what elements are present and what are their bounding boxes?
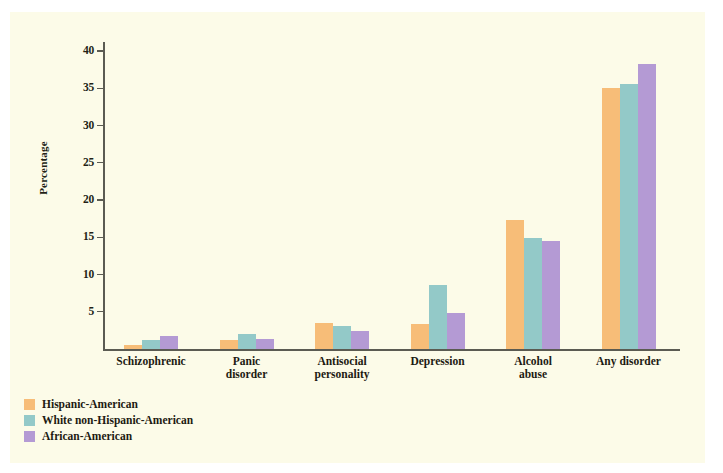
legend-label: Hispanic-American (42, 398, 138, 410)
y-tick-label-row: 40 (10, 44, 94, 58)
chart-figure: Percentage 510152025303540 Schizophrenic… (10, 12, 705, 463)
bar (351, 331, 369, 349)
bar-set (602, 49, 656, 349)
legend-label: African-American (42, 430, 132, 442)
y-tick-label-row: 35 (10, 81, 94, 95)
y-tick-label: 15 (60, 230, 94, 242)
bar (542, 241, 560, 349)
bar (429, 285, 447, 349)
bar (238, 334, 256, 349)
y-tick-mark (97, 237, 103, 238)
y-tick-mark (97, 125, 103, 126)
bar-set (124, 49, 178, 349)
bar (620, 84, 638, 349)
y-tick-label-row: 15 (10, 230, 94, 244)
y-tick-label: 40 (60, 44, 94, 56)
legend-swatch-icon (24, 415, 35, 426)
bar (256, 339, 274, 349)
x-axis-category-label-line: Any disorder (569, 355, 689, 368)
y-tick-label-row: 25 (10, 156, 94, 170)
plot-area: Percentage 510152025303540 Schizophrenic… (10, 12, 705, 463)
y-tick-label: 20 (60, 193, 94, 205)
y-tick-mark (97, 311, 103, 312)
bar-group: Panicdisorder (220, 49, 274, 349)
bar (506, 220, 524, 349)
y-tick-mark (97, 199, 103, 200)
x-axis-line (103, 349, 680, 351)
bar (142, 340, 160, 349)
y-tick-label-row: 30 (10, 119, 94, 133)
y-tick-label: 35 (60, 81, 94, 93)
legend-item: African-American (24, 429, 193, 443)
legend-swatch-icon (24, 431, 35, 442)
legend-swatch-icon (24, 399, 35, 410)
x-axis-category-label: Any disorder (569, 355, 689, 368)
bar (315, 323, 333, 349)
y-tick-mark (97, 50, 103, 51)
bar (220, 340, 238, 349)
y-tick-label-row: 5 (10, 305, 94, 319)
legend-item: Hispanic-American (24, 397, 193, 411)
bar (638, 64, 656, 349)
bar-group: Any disorder (602, 49, 656, 349)
bar-set (411, 49, 465, 349)
bar-set (506, 49, 560, 349)
bar-group: Alcoholabuse (506, 49, 560, 349)
bar (124, 345, 142, 349)
bar-set (220, 49, 274, 349)
y-tick-label-row: 20 (10, 193, 94, 207)
x-axis-category-label-line: personality (282, 368, 402, 381)
y-tick-label-row: 10 (10, 268, 94, 282)
y-tick-mark (97, 274, 103, 275)
y-tick-mark (97, 162, 103, 163)
bar (602, 88, 620, 349)
y-axis-line (103, 42, 105, 350)
y-tick-label: 30 (60, 119, 94, 131)
y-tick-label: 10 (60, 268, 94, 280)
bar (333, 326, 351, 349)
y-tick-mark (97, 88, 103, 89)
bar (411, 324, 429, 349)
legend-item: White non-Hispanic-American (24, 413, 193, 427)
bar-group: Antisocialpersonality (315, 49, 369, 349)
y-tick-label: 5 (60, 305, 94, 317)
chart-legend: Hispanic-AmericanWhite non-Hispanic-Amer… (24, 397, 193, 445)
bar-group: Depression (411, 49, 465, 349)
bar-group: Schizophrenic (124, 49, 178, 349)
legend-label: White non-Hispanic-American (42, 414, 193, 426)
x-axis-category-label-line: abuse (473, 368, 593, 381)
bar (160, 336, 178, 349)
bar (447, 313, 465, 350)
bar-set (315, 49, 369, 349)
bar (524, 238, 542, 349)
y-tick-label: 25 (60, 156, 94, 168)
